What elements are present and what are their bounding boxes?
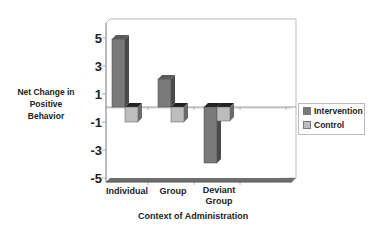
back-wall [106,19,296,182]
bar-group-control [171,103,188,122]
x-tick-group: Group [155,186,191,197]
legend-swatch-control [303,121,311,129]
legend-item-intervention: Intervention [299,104,364,118]
bar-individual-intervention [112,35,129,107]
legend-item-control: Control [299,118,364,132]
bar-group-intervention [158,75,175,107]
bar-individual-control [125,103,142,122]
x-tick-deviant-group: Deviant Group [199,185,239,207]
floor [106,178,296,182]
x-tick-deviant-line-2: Group [199,196,239,207]
legend-swatch-intervention [303,107,311,115]
legend-label-control: Control [314,120,344,130]
x-tick-deviant-line-1: Deviant [199,185,239,196]
bar-deviant-control [217,103,234,121]
legend-label-intervention: Intervention [314,106,363,116]
x-tick-individual: Individual [104,186,150,197]
legend: Intervention Control [298,103,365,135]
x-axis-title: Context of Administration [138,211,248,221]
